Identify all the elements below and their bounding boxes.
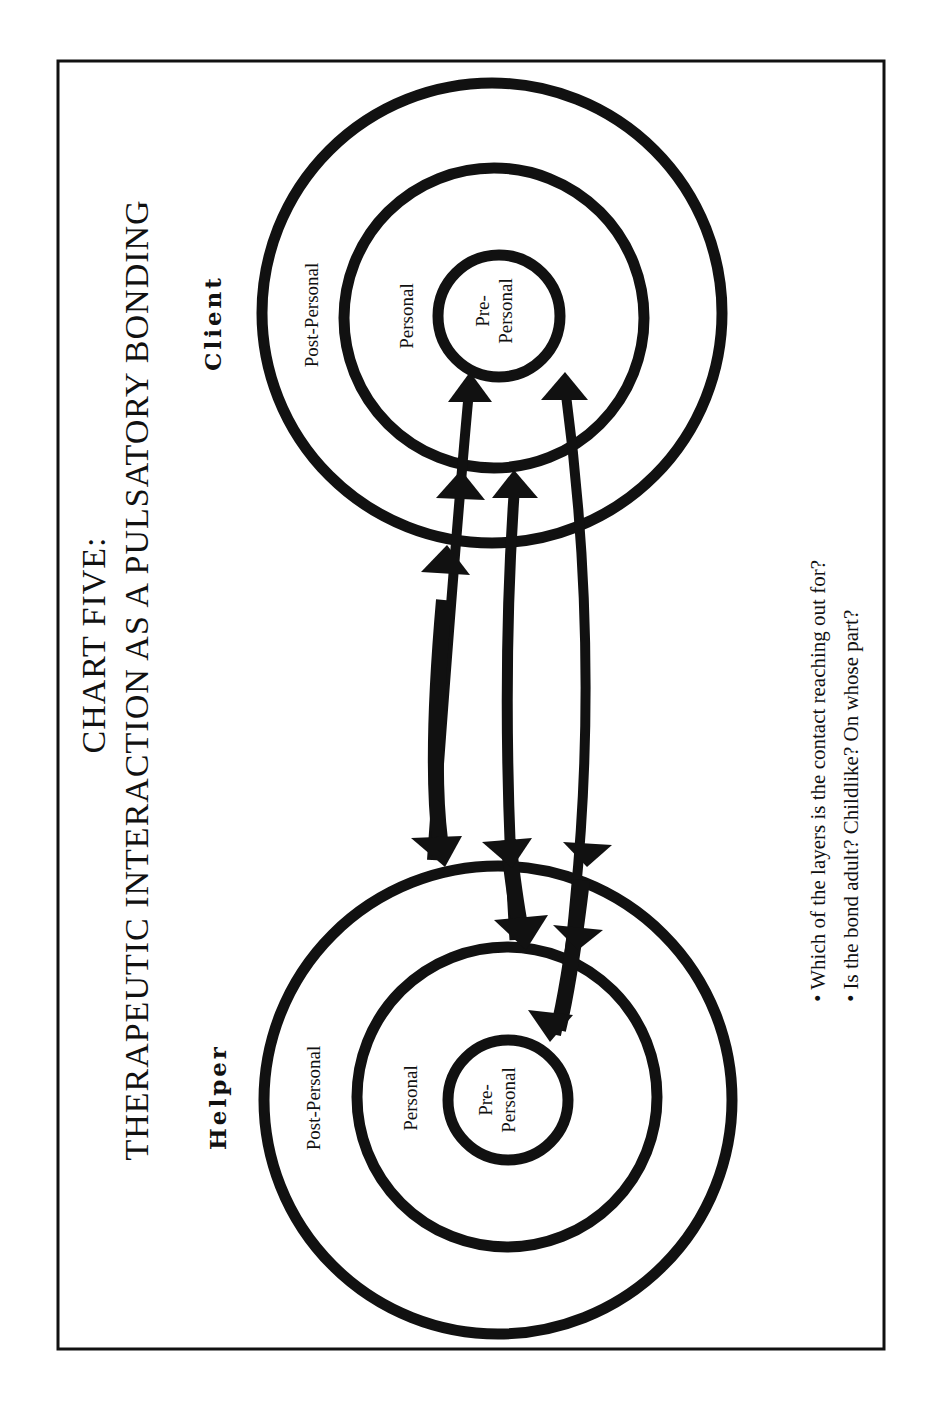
question-2: • Is the bond adult? Childlike? On whose… [839,610,863,1002]
helper-pre-personal-label-2: Personal [498,1067,519,1132]
client-personal-label: Personal [396,283,417,348]
title-line-2: THERAPEUTIC INTERACTION AS A PULSATORY B… [118,199,155,1160]
client-pre-personal-label-2: Personal [495,278,516,343]
arrow-helper-pre-personal-to-client-pre-personal [528,372,612,1042]
client-pre-personal-label-1: Pre- [472,295,493,327]
client-personal-ring [344,168,644,468]
helper-post-personal-label: Post-Personal [303,1046,324,1151]
helper-label: Helper [204,1044,231,1150]
chart-frame [58,61,884,1349]
client-label: Client [199,275,226,371]
chart-page: CHART FIVE: THERAPEUTIC INTERACTION AS A… [0,0,925,1410]
question-1: • Which of the layers is the contact rea… [806,560,830,1002]
reflection-questions: • Which of the layers is the contact rea… [806,560,863,1002]
client-layer-labels: Post-Personal Personal Pre- Personal [301,263,516,368]
title-line-1: CHART FIVE: [75,536,112,753]
chart-title: CHART FIVE: THERAPEUTIC INTERACTION AS A… [75,199,155,1160]
diagram-canvas: CHART FIVE: THERAPEUTIC INTERACTION AS A… [0,0,925,1410]
helper-personal-label: Personal [400,1065,421,1130]
client-post-personal-label: Post-Personal [301,263,322,368]
helper-layer-labels: Post-Personal Personal Pre- Personal [303,1046,519,1151]
helper-pre-personal-label-1: Pre- [475,1084,496,1116]
